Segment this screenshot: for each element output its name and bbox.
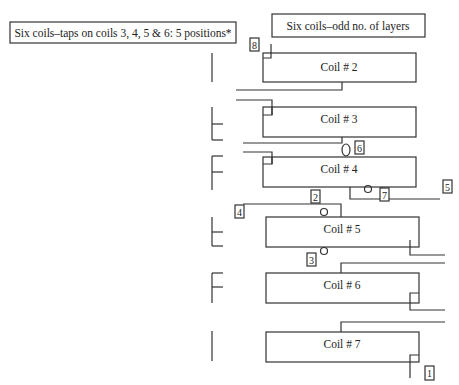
coil-3: Coil # 3 — [236, 100, 416, 143]
svg-text:7: 7 — [382, 190, 387, 201]
tap-8: 8 — [250, 38, 259, 51]
tap-1: 1 — [425, 366, 434, 380]
svg-text:8: 8 — [252, 40, 257, 51]
coil-5: Coil # 5 — [243, 204, 445, 255]
coil-6: Coil # 6 — [266, 263, 445, 310]
coil-2-label: Coil # 2 — [320, 61, 357, 73]
coil-6-label: Coil # 6 — [323, 279, 360, 291]
right-title-box: Six coils–odd no. of layers — [272, 14, 425, 37]
coil-7: Coil # 7 — [266, 322, 445, 378]
svg-text:3: 3 — [309, 255, 314, 266]
svg-text:6: 6 — [357, 143, 362, 154]
winding-diagram: Six coils–taps on coils 3, 4, 5 & 6: 5 p… — [0, 0, 459, 385]
tap-5: 5 — [443, 180, 452, 193]
left-title: Six coils–taps on coils 3, 4, 5 & 6: 5 p… — [14, 27, 231, 40]
svg-text:2: 2 — [313, 192, 318, 203]
coil-4-label: Coil # 4 — [320, 163, 357, 175]
coil-7-label: Coil # 7 — [323, 338, 360, 350]
coil-5-label: Coil # 5 — [323, 223, 360, 235]
left-title-box: Six coils–taps on coils 3, 4, 5 & 6: 5 p… — [10, 22, 236, 43]
svg-text:1: 1 — [427, 368, 432, 379]
switch-position-marks — [212, 53, 223, 361]
tap-7: 7 — [380, 188, 389, 201]
tap-6: 6 — [342, 141, 364, 156]
coil-4: Coil # 4 — [243, 152, 440, 199]
right-title: Six coils–odd no. of layers — [287, 20, 410, 33]
tap-2: 2 — [311, 190, 320, 203]
svg-text:5: 5 — [445, 182, 450, 193]
tap-3: 3 — [307, 253, 316, 266]
tap-4: 4 — [235, 205, 244, 218]
coil-3-label: Coil # 3 — [320, 113, 357, 125]
svg-text:4: 4 — [237, 207, 242, 218]
coil-2: Coil # 2 — [236, 44, 416, 90]
